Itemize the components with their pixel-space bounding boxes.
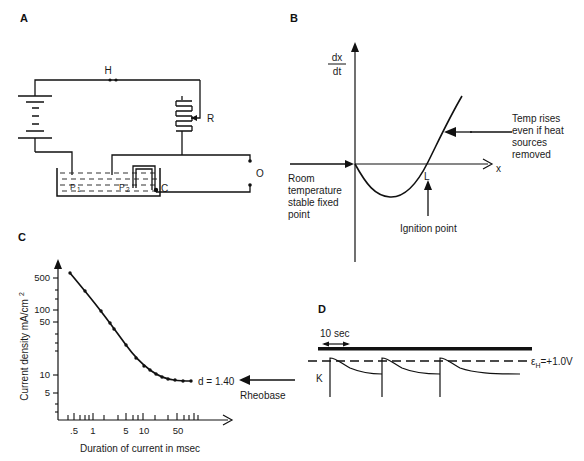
- panel-c-ylabel-group: Current density mA/cm 2: [18, 292, 30, 401]
- panel-b-right-annotation-line2: even if heat: [512, 125, 564, 136]
- panel-c-ylabel: Current density mA/cm: [19, 299, 30, 401]
- panel-c-ytick-5: 5: [45, 387, 50, 398]
- panel-c-letter: C: [18, 231, 26, 243]
- label-electrode-p1-sub: 1: [77, 186, 81, 193]
- panel-d-trace: [330, 358, 520, 397]
- panel-c-xtick-50: 50: [173, 425, 184, 436]
- panel-d-scale-label: 10 sec: [320, 328, 349, 339]
- panel-c-y-ticks: 500 100 50 10 5: [34, 272, 58, 412]
- panel-d-scale-bar: [322, 342, 350, 347]
- output-terminal-top: [248, 159, 252, 163]
- panel-b-right-annotation-line4: removed: [512, 149, 551, 160]
- output-terminal-bottom: [248, 183, 252, 187]
- wire-to-output-bottom: [156, 185, 250, 192]
- capillary-electrode: C: [133, 166, 168, 194]
- figure-canvas: A H R: [0, 0, 584, 461]
- panel-c-xtick-10: 10: [139, 425, 150, 436]
- panel-c-ytick-100: 100: [34, 304, 50, 315]
- wire-top-left: [35, 80, 200, 86]
- data-point: [154, 372, 157, 375]
- wire-rheostat-to-output: [182, 155, 250, 161]
- battery-symbol: [18, 86, 52, 152]
- panel-b-x-label: x: [496, 163, 501, 174]
- panel-d-potential-label: εH=+1.0V: [531, 356, 573, 369]
- panel-c-curve: [70, 273, 192, 381]
- panel-b-left-annotation-line1: Room: [288, 173, 315, 184]
- panel-c-y-arrowhead: [54, 259, 62, 269]
- data-point: [112, 327, 115, 330]
- panel-c-xtick-1: 1: [90, 425, 95, 436]
- label-electrode-p2-sub: 2: [126, 186, 130, 193]
- panel-b-left-annotation-line4: point: [288, 209, 310, 220]
- switch-contact-right: [114, 78, 117, 81]
- panel-c-xtick-0_5: .5: [70, 425, 78, 436]
- panel-b-y-numerator: dx: [332, 52, 343, 63]
- panel-c-ytick-10: 10: [39, 369, 50, 380]
- panel-b-left-annotation-line2: temperature: [288, 185, 342, 196]
- data-point: [166, 377, 169, 380]
- panel-b-y-label: dx dt: [328, 52, 346, 77]
- data-point: [181, 379, 184, 382]
- panel-a: A H R: [18, 12, 264, 196]
- panel-c-rheobase-arrowhead: [239, 375, 250, 385]
- panel-d-letter: D: [318, 303, 326, 315]
- label-electrode-p2: P: [119, 182, 125, 192]
- panel-b-bottom-annotation: Ignition point: [400, 223, 457, 234]
- panel-c-xlabel: Duration of current in msec: [80, 443, 200, 454]
- panel-b-curve: [355, 96, 462, 197]
- panel-c-xtick-5: 5: [123, 425, 128, 436]
- panel-d-trace-label: K: [316, 373, 323, 384]
- data-point: [83, 289, 86, 292]
- label-electrode-p1: P: [70, 182, 76, 192]
- label-rheostat-r: R: [207, 113, 214, 124]
- panel-c-curve-label: d = 1.40: [198, 376, 235, 387]
- panel-c: C 500 100 50 10 5: [18, 231, 295, 454]
- panel-c-ylabel-sup: 2: [18, 292, 25, 296]
- panel-b-right-annotation-line1: Temp rises: [512, 113, 560, 124]
- switch-contact-left: [108, 78, 111, 81]
- label-output-o: O: [256, 168, 264, 179]
- data-point: [68, 271, 71, 274]
- data-point: [108, 321, 111, 324]
- panel-d-stimulus-bar: [318, 347, 532, 351]
- panel-b-y-arrowhead: [351, 42, 359, 52]
- panel-b-right-annotation-line3: sources: [512, 137, 547, 148]
- data-point: [124, 343, 127, 346]
- panel-c-ytick-50: 50: [39, 316, 50, 327]
- label-switch-h: H: [104, 65, 111, 76]
- data-point: [99, 309, 102, 312]
- panel-b-y-denominator: dt: [333, 66, 342, 77]
- panel-b-point-label: L: [424, 171, 430, 182]
- panel-c-data-points: [68, 271, 192, 382]
- data-point: [142, 364, 145, 367]
- wire-rheostat-to-inner-electrode: [112, 155, 182, 175]
- panel-c-rheobase-label: Rheobase: [240, 390, 286, 401]
- data-point: [173, 378, 176, 381]
- data-point: [160, 375, 163, 378]
- panel-c-ytick-500: 500: [34, 272, 50, 283]
- wire-to-electrode-p1: [35, 152, 72, 175]
- data-point: [148, 368, 151, 371]
- rheostat-symbol: R: [176, 96, 214, 155]
- panel-b-letter: B: [290, 12, 298, 24]
- panel-b-left-annotation-line3: stable fixed: [288, 197, 339, 208]
- panel-a-letter: A: [20, 12, 28, 24]
- panel-b: B x dx dt L Room temperature stable fixe…: [288, 12, 564, 262]
- data-point: [189, 379, 192, 382]
- data-point: [134, 356, 137, 359]
- panel-b-left-arrowhead: [345, 160, 354, 168]
- panel-c-x-ticks: .5 1 5 10 50: [68, 413, 198, 436]
- panel-d: D 10 sec εH=+1.0V K: [308, 303, 573, 397]
